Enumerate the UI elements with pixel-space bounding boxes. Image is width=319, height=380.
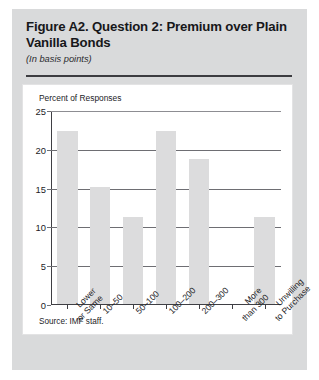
bar-3	[123, 217, 143, 304]
y-axis-line	[51, 111, 52, 305]
y-tick-mark-10	[47, 227, 51, 228]
header-divider	[26, 75, 292, 77]
plot-area: 0510152025	[51, 111, 281, 305]
bar-4	[156, 131, 176, 304]
figure-subtitle: (In basis points)	[26, 54, 292, 65]
y-tick-label-15: 15	[36, 183, 46, 194]
bar-1	[57, 131, 77, 304]
bar-5	[189, 159, 209, 304]
y-tick-mark-20	[47, 150, 51, 151]
x-tick-mark-6	[232, 305, 233, 309]
figure-title: Figure A2. Question 2: Premium over Plai…	[26, 19, 292, 50]
y-tick-label-10: 10	[36, 222, 46, 233]
figure-header: Figure A2. Question 2: Premium over Plai…	[26, 19, 292, 65]
y-tick-label-20: 20	[36, 144, 46, 155]
y-tick-mark-15	[47, 189, 51, 190]
y-tick-mark-5	[47, 266, 51, 267]
y-axis-title: Percent of Responses	[39, 93, 121, 103]
y-tick-label-0: 0	[41, 300, 46, 311]
gridline-25	[51, 111, 281, 112]
figure-card: Figure A2. Question 2: Premium over Plai…	[12, 9, 307, 370]
y-tick-label-25: 25	[36, 106, 46, 117]
chart-panel: Percent of Responses 0510152025 Loweror …	[23, 85, 292, 334]
y-tick-mark-0	[47, 305, 51, 306]
source-note: Source: IMF staff.	[39, 317, 103, 326]
bar-2	[90, 187, 110, 304]
y-tick-mark-25	[47, 111, 51, 112]
y-tick-label-5: 5	[41, 261, 46, 272]
x-tick-mark-7	[265, 305, 266, 309]
